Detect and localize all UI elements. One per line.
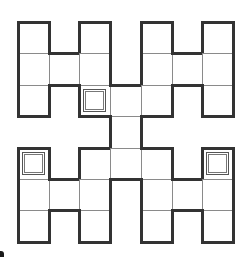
- region-border: [171, 52, 204, 55]
- region-border: [109, 178, 143, 181]
- grid-cell[interactable]: [18, 53, 50, 86]
- region-border: [201, 147, 204, 181]
- region-border: [48, 147, 51, 181]
- region-border: [171, 209, 204, 212]
- grid-cell[interactable]: [49, 53, 80, 86]
- region-border: [17, 84, 20, 118]
- grid-cell[interactable]: [79, 53, 111, 86]
- region-border: [171, 21, 174, 55]
- grid-cell[interactable]: [172, 179, 203, 211]
- region-border: [78, 21, 112, 24]
- grid-cell[interactable]: [202, 85, 234, 117]
- region-border: [140, 21, 174, 24]
- grid-cell[interactable]: [141, 53, 173, 86]
- region-border: [171, 178, 204, 181]
- region-border: [171, 84, 174, 118]
- region-border: [232, 209, 235, 244]
- grid-cell[interactable]: [141, 148, 173, 180]
- grid-cell[interactable]: [18, 85, 50, 117]
- marked-square-icon: [206, 152, 229, 175]
- region-border: [17, 115, 51, 118]
- grid-cell[interactable]: [141, 179, 173, 211]
- region-border: [48, 84, 81, 87]
- grid-cell[interactable]: [110, 116, 142, 149]
- grid-cell[interactable]: [202, 210, 234, 243]
- grid-cell[interactable]: [18, 22, 50, 54]
- region-border: [201, 84, 204, 118]
- region-border: [109, 178, 112, 212]
- region-border: [17, 21, 20, 55]
- region-border: [140, 115, 143, 150]
- grid-cell[interactable]: [141, 210, 173, 243]
- region-border: [171, 209, 174, 244]
- region-border: [171, 147, 174, 181]
- region-border: [78, 209, 81, 244]
- grid-cell[interactable]: [49, 179, 80, 211]
- region-border: [17, 241, 51, 244]
- region-border: [232, 52, 235, 87]
- region-border: [78, 21, 81, 55]
- region-border: [48, 209, 51, 244]
- region-border: [48, 84, 51, 118]
- region-border: [201, 115, 235, 118]
- region-border: [17, 21, 51, 24]
- region-border: [109, 209, 112, 244]
- region-border: [109, 115, 112, 150]
- region-border: [48, 21, 51, 55]
- region-border: [232, 21, 235, 55]
- region-border: [140, 209, 143, 244]
- region-border: [140, 115, 174, 118]
- region-border: [78, 147, 81, 181]
- grid-cell[interactable]: [79, 210, 111, 243]
- marked-square-icon: [83, 89, 106, 112]
- region-border: [140, 21, 143, 55]
- region-border: [78, 241, 112, 244]
- region-border: [140, 178, 143, 212]
- marked-square-icon: [22, 152, 45, 175]
- region-border: [140, 241, 174, 244]
- region-border: [48, 209, 81, 212]
- region-border: [17, 147, 20, 181]
- grid-cell[interactable]: [79, 148, 111, 180]
- region-border: [17, 178, 20, 212]
- grid-cell[interactable]: [79, 179, 111, 211]
- region-border: [109, 52, 112, 87]
- region-border: [17, 52, 20, 87]
- region-border: [78, 84, 81, 118]
- region-border: [109, 21, 112, 55]
- grid-cell[interactable]: [202, 179, 234, 211]
- region-border: [78, 147, 112, 150]
- region-border: [17, 209, 20, 244]
- region-border: [171, 84, 204, 87]
- region-border: [140, 52, 143, 87]
- region-border: [48, 178, 81, 181]
- puzzle-board: [18, 22, 233, 242]
- region-border: [109, 84, 143, 87]
- grid-cell[interactable]: [141, 85, 173, 117]
- grid-cell[interactable]: [79, 22, 111, 54]
- grid-cell[interactable]: [141, 22, 173, 54]
- region-border: [232, 84, 235, 118]
- region-border: [201, 241, 235, 244]
- region-border: [201, 209, 204, 244]
- grid-cell[interactable]: [110, 85, 142, 117]
- region-border: [201, 21, 204, 55]
- region-border: [140, 147, 174, 150]
- region-border: [201, 147, 235, 150]
- corner-artifact: [0, 251, 4, 257]
- grid-cell[interactable]: [172, 53, 203, 86]
- grid-cell[interactable]: [18, 210, 50, 243]
- region-border: [17, 147, 51, 150]
- region-border: [232, 147, 235, 181]
- grid-cell[interactable]: [202, 53, 234, 86]
- region-border: [232, 178, 235, 212]
- grid-cell[interactable]: [202, 22, 234, 54]
- grid-cell[interactable]: [110, 148, 142, 180]
- region-border: [78, 115, 112, 118]
- grid-cell[interactable]: [18, 179, 50, 211]
- region-border: [48, 52, 81, 55]
- region-border: [201, 21, 235, 24]
